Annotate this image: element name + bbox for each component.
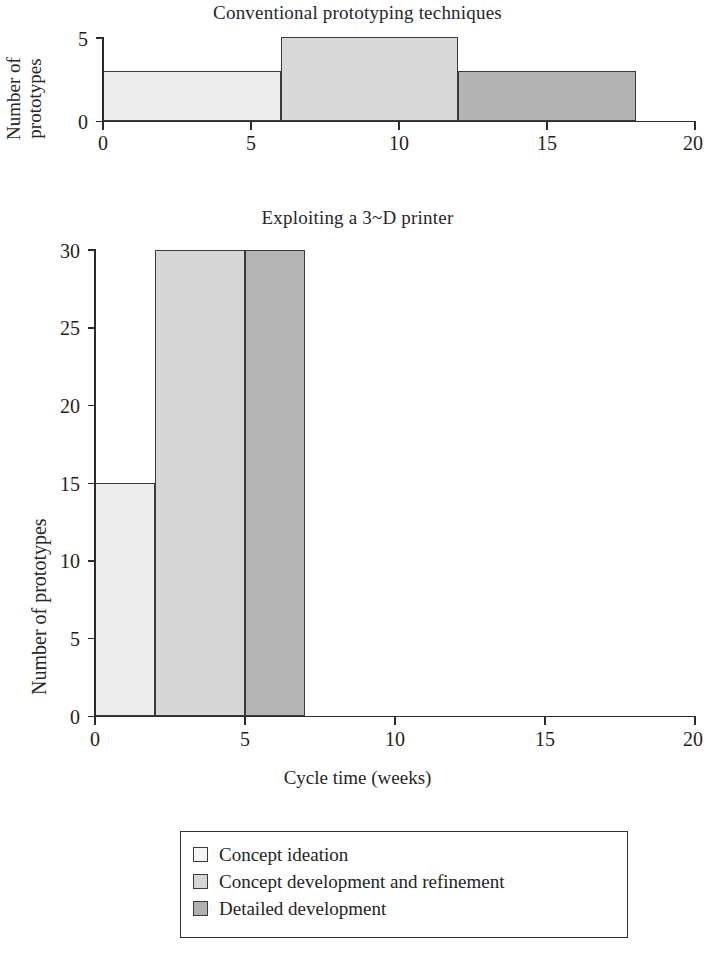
figure-two-bar-charts: Conventional prototyping techniques Numb… — [0, 0, 715, 954]
y-tick-label-bottom-10: 10 — [32, 550, 80, 573]
y-tick-bottom-25 — [88, 327, 95, 329]
bar-top-concept-development — [281, 37, 459, 121]
x-tick-bottom-20 — [694, 717, 696, 725]
bar-bottom-concept-development — [155, 250, 245, 716]
legend-label-detailed-development: Detailed development — [219, 898, 386, 920]
bar-bottom-detailed-development — [245, 250, 305, 716]
x-tick-bottom-15 — [544, 717, 546, 725]
x-tick-bottom-10 — [394, 717, 396, 725]
x-tick-top-20 — [694, 122, 696, 130]
bar-top-detailed-development — [458, 71, 636, 121]
legend-swatch-concept-ideation — [193, 847, 208, 862]
x-tick-label-bottom-20: 20 — [683, 728, 703, 751]
bar-top-concept-ideation — [103, 71, 281, 121]
y-tick-label-bottom-20: 20 — [32, 395, 80, 418]
x-tick-top-10 — [398, 122, 400, 130]
x-tick-label-bottom-5: 5 — [240, 728, 250, 751]
y-tick-label-bottom-5: 5 — [32, 628, 80, 651]
bar-bottom-concept-ideation — [95, 483, 155, 716]
x-tick-label-top-20: 20 — [683, 132, 703, 155]
x-tick-top-0 — [102, 122, 104, 130]
x-tick-label-top-5: 5 — [246, 132, 256, 155]
legend-item-concept-ideation: Concept ideation — [193, 841, 613, 868]
x-tick-top-5 — [250, 122, 252, 130]
x-tick-label-top-0: 0 — [98, 132, 108, 155]
legend-swatch-concept-development — [193, 874, 208, 889]
legend-item-concept-development: Concept development and refinement — [193, 868, 613, 895]
y-tick-label-bottom-30: 30 — [32, 240, 80, 263]
y-tick-label-top-5: 5 — [52, 28, 88, 51]
legend-box: Concept ideation Concept development and… — [180, 831, 628, 938]
y-tick-label-bottom-15: 15 — [32, 473, 80, 496]
legend-label-concept-ideation: Concept ideation — [219, 844, 348, 866]
y-tick-bottom-10 — [88, 560, 95, 562]
x-tick-top-15 — [546, 122, 548, 130]
y-tick-bottom-15 — [88, 483, 95, 485]
legend-swatch-detailed-development — [193, 901, 208, 916]
plot-area-top: 0 5 0 5 10 15 20 — [0, 0, 715, 180]
plot-area-bottom: 0 5 10 15 20 25 30 0 5 10 15 20 Cycle ti… — [0, 195, 715, 810]
y-tick-top-5 — [96, 37, 103, 39]
legend-item-detailed-development: Detailed development — [193, 895, 613, 922]
y-tick-bottom-20 — [88, 405, 95, 407]
x-tick-label-bottom-10: 10 — [385, 728, 405, 751]
x-axis-title-bottom: Cycle time (weeks) — [0, 767, 715, 789]
x-tick-bottom-0 — [94, 717, 96, 725]
x-tick-bottom-5 — [244, 717, 246, 725]
x-tick-label-bottom-15: 15 — [535, 728, 555, 751]
chart-exploiting-3d-printer: Exploiting a 3~D printer Number of proto… — [0, 195, 715, 810]
y-tick-label-bottom-25: 25 — [32, 317, 80, 340]
legend-label-concept-development: Concept development and refinement — [219, 871, 504, 893]
y-axis-line-top — [102, 37, 104, 122]
y-tick-bottom-30 — [88, 249, 95, 251]
y-tick-label-bottom-0: 0 — [32, 706, 80, 729]
y-tick-label-top-0: 0 — [52, 111, 88, 134]
x-tick-label-top-15: 15 — [537, 132, 557, 155]
y-tick-bottom-5 — [88, 638, 95, 640]
x-tick-label-bottom-0: 0 — [90, 728, 100, 751]
x-tick-label-top-10: 10 — [389, 132, 409, 155]
chart-conventional-prototyping: Conventional prototyping techniques Numb… — [0, 0, 715, 180]
